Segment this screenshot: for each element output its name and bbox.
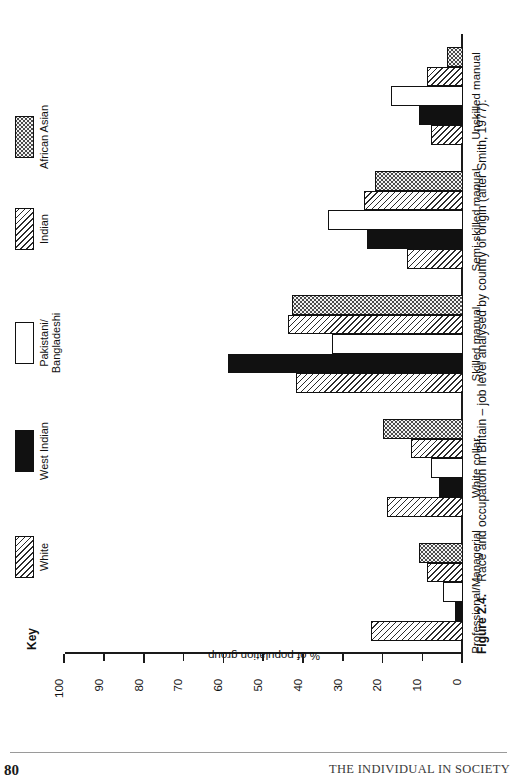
bar-skilled-manual-white <box>295 373 462 393</box>
y-axis-tick <box>342 654 344 661</box>
y-axis-tick-label: 20 <box>371 679 383 692</box>
y-axis-tick <box>461 654 463 663</box>
bar-group-professional-managerial: Professional/Managerial <box>65 543 463 641</box>
legend-item-west-indian: West Indian <box>15 430 34 472</box>
bar-skilled-manual-african-asian <box>291 295 462 315</box>
y-axis-tick-label: 80 <box>132 679 144 692</box>
legend-swatch-pakistani-bangladeshi <box>15 322 34 364</box>
bar-unskilled-manual-pakistani-bangladeshi <box>391 86 463 106</box>
bar-white-collar-indian <box>411 439 463 459</box>
legend-item-pakistani-bangladeshi: Pakistani/Bangladeshi <box>15 322 34 364</box>
bar-semi-skilled-manual-pakistani-bangladeshi <box>327 210 462 230</box>
legend-swatch-african-asian <box>15 116 34 158</box>
bar-white-collar-west-indian <box>439 478 463 498</box>
bar-skilled-manual-pakistani-bangladeshi <box>331 334 462 354</box>
bar-unskilled-manual-white <box>431 125 463 145</box>
y-axis-tick <box>143 654 145 663</box>
running-head: THE INDIVIDUAL IN SOCIETY <box>329 762 510 777</box>
y-axis-tick-label: 40 <box>291 679 303 692</box>
figure-caption-text: Race and occupation in Britain – job lev… <box>475 99 489 581</box>
legend-label-pakistani-bangladeshi: Pakistani/Bangladeshi <box>38 313 63 374</box>
legend-swatch-west-indian <box>15 430 34 472</box>
y-axis-tick <box>222 654 224 663</box>
y-axis-tick <box>63 654 65 663</box>
bar-group-semi-skilled-manual: Semi-skilled manual <box>65 171 463 269</box>
bar-professional-managerial-indian <box>427 563 463 583</box>
bar-professional-managerial-white <box>371 621 463 641</box>
legend-label-west-indian: West Indian <box>38 422 50 480</box>
bar-white-collar-pakistani-bangladeshi <box>431 458 463 478</box>
y-axis-tick <box>262 654 264 661</box>
bar-semi-skilled-manual-indian <box>363 191 463 211</box>
figure-caption: Figure 2.4. Race and occupation in Brita… <box>475 99 489 654</box>
bar-skilled-manual-indian <box>287 315 462 335</box>
y-axis-tick-label: 30 <box>331 679 343 692</box>
bar-group-white-collar: White collar <box>65 419 463 517</box>
bar-group-skilled-manual: Skilled manual <box>65 295 463 393</box>
y-axis-tick-label: 50 <box>252 679 264 692</box>
bar-unskilled-manual-indian <box>427 67 463 87</box>
legend-item-african-asian: African Asian <box>15 116 34 158</box>
legend-label-indian: Indian <box>38 214 50 244</box>
page-number: 80 <box>4 762 19 779</box>
bar-semi-skilled-manual-african-asian <box>375 171 463 191</box>
y-axis-tick <box>103 654 105 661</box>
chart-legend: Key WhiteWest IndianPakistani/Bangladesh… <box>9 50 61 650</box>
bar-white-collar-african-asian <box>383 419 463 439</box>
figure-container: Key WhiteWest IndianPakistani/Bangladesh… <box>7 0 507 742</box>
legend-item-white: White <box>15 536 34 578</box>
y-axis-tick-label: 0 <box>451 679 463 685</box>
bar-unskilled-manual-african-asian <box>447 47 463 67</box>
bar-professional-managerial-west-indian <box>455 602 463 622</box>
bar-group-unskilled-manual: Unskilled manual <box>65 47 463 145</box>
legend-swatch-white <box>15 536 34 578</box>
y-axis-tick <box>421 654 423 661</box>
bar-professional-managerial-pakistani-bangladeshi <box>443 582 463 602</box>
figure-inner: Key WhiteWest IndianPakistani/Bangladesh… <box>7 0 507 742</box>
chart-plot-area: % of population group 010203040506070809… <box>65 34 463 654</box>
y-axis-tick-label: 10 <box>411 679 423 692</box>
bar-semi-skilled-manual-white <box>407 249 463 269</box>
figure-label: Figure 2.4. <box>475 594 489 654</box>
page-divider-rule <box>10 752 507 753</box>
legend-title: Key <box>25 628 39 650</box>
bar-white-collar-white <box>387 497 463 517</box>
bar-skilled-manual-west-indian <box>228 354 463 374</box>
y-axis-tick <box>381 654 383 663</box>
y-axis-tick-label: 90 <box>92 679 104 692</box>
y-axis-tick-label: 100 <box>53 679 65 698</box>
y-axis-tick-label: 70 <box>172 679 184 692</box>
y-axis-tick <box>302 654 304 663</box>
y-axis-tick-label: 60 <box>212 679 224 692</box>
bar-unskilled-manual-west-indian <box>419 106 463 126</box>
legend-swatch-indian <box>15 208 34 250</box>
bar-semi-skilled-manual-west-indian <box>367 230 463 250</box>
legend-item-indian: Indian <box>15 208 34 250</box>
legend-label-african-asian: African Asian <box>38 105 50 169</box>
bar-professional-managerial-african-asian <box>419 543 463 563</box>
legend-label-white: White <box>38 543 50 571</box>
y-axis-tick <box>182 654 184 661</box>
